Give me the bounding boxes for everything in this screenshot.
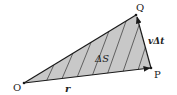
triangle-area-diagram: O Q P r ΔS vΔt — [0, 0, 177, 95]
point-O — [23, 82, 26, 85]
swept-area-region — [24, 15, 151, 83]
label-P: P — [154, 69, 161, 80]
point-P — [150, 67, 153, 70]
point-Q — [135, 14, 138, 17]
label-delta-s: ΔS — [94, 53, 109, 64]
label-O: O — [13, 82, 21, 93]
label-v-delta-t: vΔt — [148, 36, 165, 46]
label-r: r — [65, 83, 71, 94]
label-Q: Q — [136, 2, 144, 13]
